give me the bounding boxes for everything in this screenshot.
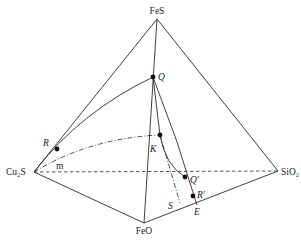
label-q-prime: Q′ xyxy=(190,175,200,185)
label-q: Q xyxy=(158,72,165,82)
label-feo: FeO xyxy=(136,226,153,236)
curve-k-qprime xyxy=(160,135,185,177)
label-m: m xyxy=(56,161,64,171)
dashdot-k-s xyxy=(160,135,180,203)
edge-fes-feo xyxy=(144,19,157,223)
tetrahedron-diagram: FeS Cu₂S SiO₂ FeO Q R K Q′ R′ E S m xyxy=(0,0,301,240)
label-cu2s: Cu₂S xyxy=(6,167,26,177)
point-q xyxy=(151,75,156,80)
label-fes: FeS xyxy=(150,6,165,16)
label-r-prime: R′ xyxy=(196,190,206,200)
edge-fes-cu2s xyxy=(34,19,157,172)
edge-cu2s-sio2-hidden xyxy=(34,171,278,172)
label-sio2: SiO₂ xyxy=(281,167,299,177)
label-e: E xyxy=(193,207,200,217)
curve-cu2s-r-q xyxy=(34,77,153,172)
edge-cu2s-feo xyxy=(34,172,144,223)
label-s: S xyxy=(168,201,173,211)
point-q-prime xyxy=(183,175,188,180)
point-r xyxy=(55,147,60,152)
dashdot-cu2s-k xyxy=(34,135,160,172)
edge-feo-sio2 xyxy=(144,171,278,223)
label-k: K xyxy=(149,144,157,154)
label-r: R xyxy=(42,138,49,148)
point-r-prime xyxy=(191,194,196,199)
point-k xyxy=(158,133,163,138)
edge-fes-sio2 xyxy=(157,19,278,171)
